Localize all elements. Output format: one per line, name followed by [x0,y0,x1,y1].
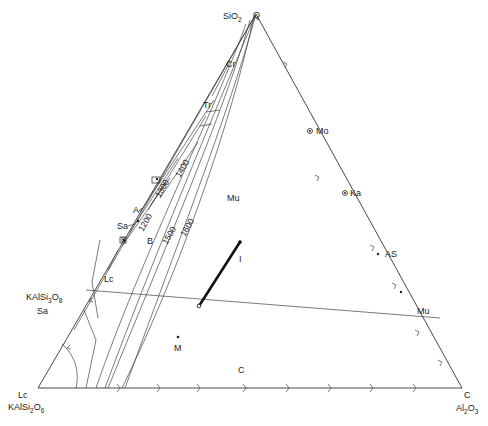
line-i-start-point [197,304,201,308]
sio2-formula: SiO [223,11,238,21]
svg-text:SiO2: SiO2 [223,11,242,23]
triangle-outline [38,14,462,388]
a-point-label: A [133,205,139,215]
kalsi2o6-formula: KAlSi2O6 [8,402,45,414]
composition-line-i [199,242,240,306]
ternary-phase-diagram: SiO2 Q Lc KAlSi2O6 C Al2O3 KAlSi3O8 Sa C… [0,0,488,426]
mo-point-label: Mo [316,126,329,136]
cristobalite-label: Cr [226,59,236,69]
b-point-label: B [147,236,153,246]
as-point-label: AS [385,249,397,259]
quartz-vertex-label: Q [253,10,260,20]
isotherm-1300-label: 1300 [153,177,171,199]
sanidine-field-label: Sa [117,221,128,231]
corundum-field-label: C [238,365,245,375]
isotherm-1500-label: 1500 [160,224,178,246]
vertex-label-bottom-right: C Al2O3 [456,390,479,415]
leucite-vertex-label: Lc [18,390,28,400]
tridymite-label: Tr [203,100,211,110]
ka-point-label: Ka [350,188,361,198]
composition-points [120,129,402,339]
mu-point-label: Mu [417,306,430,316]
b-boxed-label: B [121,236,125,243]
i-line-label: I [239,254,242,264]
mullite-field-label: Mu [227,193,240,203]
al2o3-formula: Al2O3 [456,403,479,415]
sanidine-side-label: Sa [37,306,48,316]
kalsi3o8-formula: KAlSi3O8 [26,292,63,304]
line-i-end-point [238,240,242,244]
leucite-field-label: Lc [104,274,114,284]
vertex-label-bottom-left: Lc KAlSi2O6 [8,390,45,414]
phase-boundaries [62,14,440,388]
vertex-label-top: SiO2 Q [223,10,260,23]
corundum-vertex-label: C [464,390,471,400]
m-point-label: M [174,343,182,353]
